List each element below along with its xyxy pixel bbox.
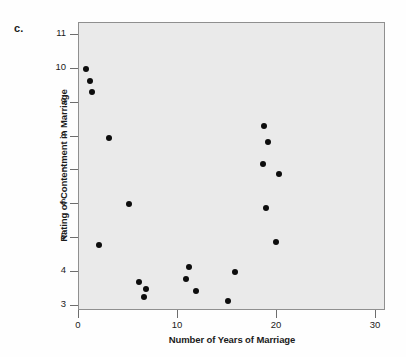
x-tick-label-0: 0	[63, 319, 93, 330]
data-point	[263, 205, 269, 211]
y-tick-label-10: 10	[40, 61, 66, 72]
y-tick-label-8: 8	[40, 129, 66, 140]
data-point	[232, 269, 238, 275]
data-point	[89, 89, 95, 95]
data-point	[260, 161, 266, 167]
x-axis-title: Number of Years of Marriage	[78, 334, 386, 345]
data-point	[183, 276, 189, 282]
x-tick-label-20: 20	[261, 319, 291, 330]
x-tick-label-30: 30	[360, 319, 390, 330]
data-point	[141, 294, 147, 300]
y-tick-3	[70, 305, 78, 306]
data-point	[276, 171, 282, 177]
y-tick-10	[70, 68, 78, 69]
scatter-plot-figure: c. Rating of Contentment in Marriage 345…	[0, 0, 406, 357]
y-tick-5	[70, 237, 78, 238]
data-point	[126, 201, 132, 207]
data-point	[273, 239, 279, 245]
y-tick-label-4: 4	[40, 264, 66, 275]
plot-area	[78, 22, 385, 310]
y-tick-label-6: 6	[40, 196, 66, 207]
y-tick-label-5: 5	[40, 230, 66, 241]
y-tick-label-9: 9	[40, 95, 66, 106]
data-point	[261, 123, 267, 129]
data-point	[186, 264, 192, 270]
y-tick-6	[70, 203, 78, 204]
y-tick-11	[70, 34, 78, 35]
y-tick-7	[70, 169, 78, 170]
panel-label: c.	[14, 22, 24, 34]
data-point	[193, 288, 199, 294]
x-tick-10	[177, 310, 178, 318]
data-point	[83, 66, 89, 72]
y-tick-8	[70, 136, 78, 137]
x-tick-30	[375, 310, 376, 318]
data-points-layer	[79, 23, 384, 309]
data-point	[225, 298, 231, 304]
data-point	[87, 78, 93, 84]
data-point	[265, 139, 271, 145]
y-tick-label-11: 11	[40, 27, 66, 38]
data-point	[106, 135, 112, 141]
x-tick-0	[78, 310, 79, 318]
y-tick-9	[70, 102, 78, 103]
data-point	[96, 242, 102, 248]
y-tick-4	[70, 271, 78, 272]
x-tick-label-10: 10	[162, 319, 192, 330]
y-tick-label-7: 7	[40, 162, 66, 173]
y-tick-label-3: 3	[40, 298, 66, 309]
x-tick-20	[276, 310, 277, 318]
data-point	[143, 286, 149, 292]
data-point	[136, 279, 142, 285]
